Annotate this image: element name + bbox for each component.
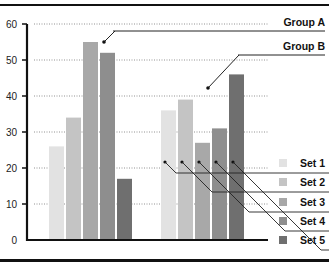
group-b-dot [206, 86, 210, 90]
group-a-label: Group A [283, 16, 325, 28]
bar-set-2-group-a [66, 118, 81, 240]
y-tick-label: 60 [6, 19, 18, 30]
bar-set-5-group-b [229, 74, 244, 240]
legend-label-3: Set 3 [300, 196, 325, 208]
y-tick-label: 40 [6, 91, 18, 102]
bottom-rule [0, 259, 329, 262]
y-tick-label: 50 [6, 55, 18, 66]
legend-label-1: Set 1 [300, 157, 325, 169]
group-b-label: Group B [283, 40, 325, 52]
legend-swatch-4 [279, 217, 287, 225]
bar-set-4-group-b [212, 128, 227, 240]
top-rule [0, 4, 329, 6]
bar-chart: 0102030405060Group AGroup BSet 1Set 2Set… [0, 0, 329, 264]
bar-set-2-group-b [178, 100, 193, 240]
legend-label-5: Set 5 [300, 234, 325, 246]
bar-set-3-group-b [195, 143, 210, 240]
bar-set-3-group-a [83, 42, 98, 240]
y-tick-label: 20 [6, 163, 18, 174]
legend-swatch-3 [279, 198, 287, 206]
bar-set-1-group-a [49, 146, 64, 240]
bar-set-4-group-a [100, 53, 115, 240]
group-a-dot [102, 40, 106, 44]
legend-label-2: Set 2 [300, 176, 325, 188]
bar-set-1-group-b [161, 110, 176, 240]
y-tick-label: 30 [6, 127, 18, 138]
legend-swatch-1 [279, 159, 287, 167]
y-tick-label: 0 [11, 235, 17, 246]
legend-swatch-2 [279, 178, 287, 186]
bar-set-5-group-a [117, 179, 132, 240]
legend-swatch-5 [279, 236, 287, 244]
group-a-leader-diag [104, 31, 115, 42]
y-tick-label: 10 [6, 199, 18, 210]
legend-label-4: Set 4 [300, 215, 325, 227]
